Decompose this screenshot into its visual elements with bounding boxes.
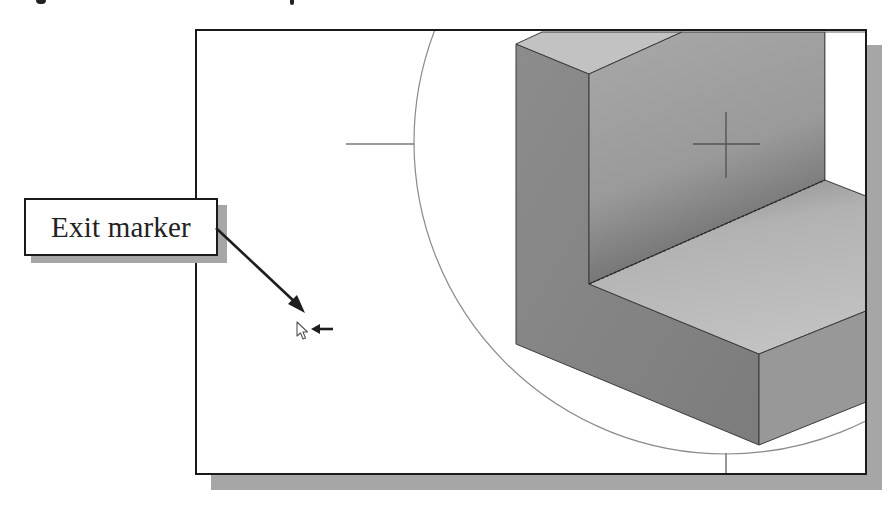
leader-arrow [216,228,305,313]
annotation-overlay [0,0,891,506]
arrow-cursor-icon [297,322,308,339]
left-arrow-icon [311,324,333,334]
